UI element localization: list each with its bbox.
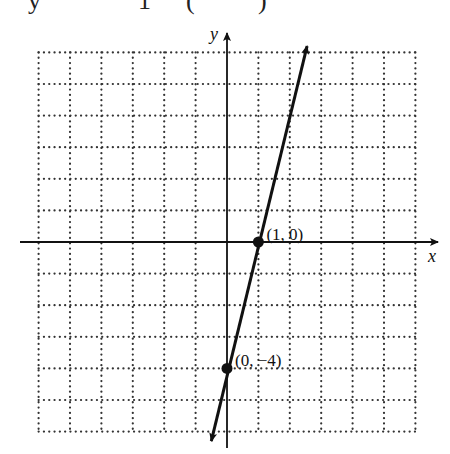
axes bbox=[20, 33, 438, 448]
point-label: (0, −4) bbox=[235, 351, 281, 370]
point-label: (1, 0) bbox=[266, 225, 303, 244]
point-marker bbox=[222, 363, 233, 374]
coordinate-graph: (1, 0)(0, −4) x y bbox=[0, 0, 450, 454]
x-axis-label: x bbox=[427, 246, 436, 266]
y-axis-label: y bbox=[208, 24, 218, 44]
point-marker bbox=[253, 237, 264, 248]
